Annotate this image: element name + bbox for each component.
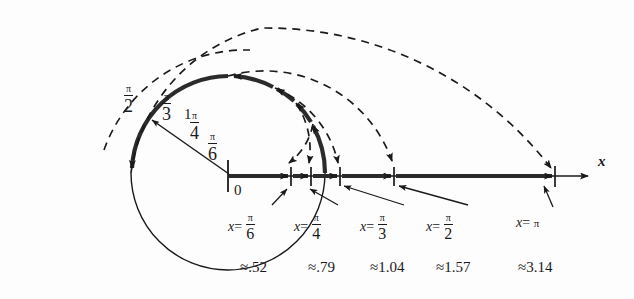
x-pi-symbol: π — [534, 217, 540, 229]
x-equals-pi-over-2: = — [432, 219, 440, 234]
circle-bold-arc-0-to-pi-over-6 — [313, 126, 325, 173]
diagram-canvas — [0, 0, 634, 299]
leader-pi-over-4 — [310, 189, 338, 205]
x-pi-over-6-numerator: π — [246, 213, 255, 225]
x-equals-pi-over-3: = — [366, 219, 374, 234]
x-value-label-pi: x= π — [516, 216, 539, 230]
angle-pi-over-2-numerator: π — [124, 84, 133, 96]
x-value-label-pi-over-2: x= π 2 — [426, 213, 453, 242]
leader-pi — [544, 186, 553, 207]
angle-label-pi-over-3: π 3 — [162, 92, 171, 123]
leader-pi-over-6 — [272, 189, 287, 205]
angle-pi-over-4-numerator: π — [190, 111, 199, 123]
approx-pi-over-4: ≈.79 — [308, 260, 335, 275]
x-axis-label: x — [598, 154, 606, 169]
leader-pi-over-3 — [344, 186, 404, 205]
approx-pi: ≈3.14 — [518, 260, 552, 275]
dashed-arc-pi-over-3 — [275, 88, 338, 163]
angle-pi-over-6-numerator: π — [208, 132, 217, 144]
x-value-label-pi-over-3: x= π 3 — [360, 213, 387, 242]
label-leader-arrows — [272, 186, 553, 207]
x-pi-over-4-numerator: π — [312, 213, 321, 225]
angle-pi-over-3-denominator: 3 — [162, 104, 171, 123]
circle-bold-arc-pi-over-3-to-pi-over-2 — [234, 76, 273, 87]
x-pi-over-3-numerator: π — [378, 213, 387, 225]
angle-pi-over-2-denominator: 2 — [124, 96, 133, 115]
dashed-arc-pi — [131, 28, 551, 173]
x-pi-over-2-denominator: 2 — [444, 225, 453, 242]
x-pi-over-2-numerator: π — [444, 213, 453, 225]
angle-label-pi-over-4: π 4 — [190, 111, 199, 142]
x-pi-over-4-denominator: 4 — [312, 225, 321, 242]
x-equals-pi-over-4: = — [300, 219, 308, 234]
angle-label-pi-over-6: π 6 — [208, 132, 217, 163]
origin-label: 0 — [234, 183, 242, 198]
x-equals-pi: = — [522, 215, 530, 230]
angle-pi-over-6-denominator: 6 — [208, 144, 217, 163]
angle-pi-over-3-numerator: π — [162, 92, 171, 104]
x-pi-over-6-denominator: 6 — [246, 225, 255, 242]
x-pi-over-3-denominator: 3 — [378, 225, 387, 242]
x-equals-pi-over-6: = — [234, 219, 242, 234]
unit-circle-unrolling-figure: 1 0 x π 2 π 3 π 4 π 6 x= π 6 — [0, 0, 634, 299]
x-value-label-pi-over-6: x= π 6 — [228, 213, 255, 242]
approx-pi-over-6: ≈.52 — [240, 260, 267, 275]
angle-label-pi-over-2: π 2 — [124, 84, 133, 115]
approx-pi-over-2: ≈1.57 — [436, 260, 470, 275]
angle-pi-over-4-denominator: 4 — [190, 123, 199, 142]
x-value-label-pi-over-4: x= π 4 — [294, 213, 321, 242]
leader-pi-over-2 — [399, 186, 468, 205]
approx-pi-over-3: ≈1.04 — [370, 260, 404, 275]
